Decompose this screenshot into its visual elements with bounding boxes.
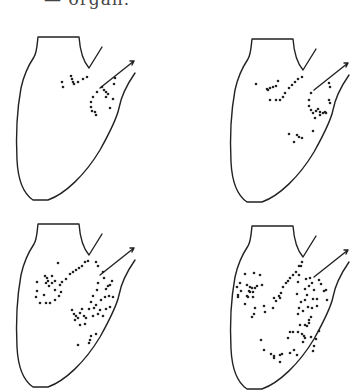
data-dot xyxy=(96,91,99,94)
data-dot xyxy=(246,284,249,287)
data-dot xyxy=(73,83,76,86)
data-dot xyxy=(312,130,315,133)
data-dot xyxy=(109,107,112,110)
data-dot xyxy=(279,99,282,102)
data-dot xyxy=(295,271,298,274)
data-dot xyxy=(72,271,75,274)
data-dot xyxy=(264,311,267,314)
data-dot xyxy=(94,111,97,114)
data-dot xyxy=(58,295,61,298)
data-dot xyxy=(254,287,257,290)
data-dot xyxy=(310,92,313,95)
data-dot xyxy=(304,337,307,340)
data-dot xyxy=(328,82,331,85)
data-dot xyxy=(247,296,250,299)
data-dot xyxy=(105,308,108,311)
data-dot xyxy=(61,281,64,284)
data-dot xyxy=(69,273,72,276)
data-dot xyxy=(105,288,108,291)
data-dot xyxy=(51,282,54,285)
data-dot xyxy=(275,300,278,303)
data-dot xyxy=(269,87,272,90)
data-dot xyxy=(259,274,262,277)
data-dot xyxy=(244,303,247,306)
data-dot xyxy=(326,299,329,302)
data-dot xyxy=(269,99,272,102)
data-dot xyxy=(114,77,117,80)
data-dot xyxy=(111,280,114,283)
data-dot xyxy=(54,280,57,283)
data-dot xyxy=(296,293,299,296)
data-dot xyxy=(293,141,296,144)
data-dot xyxy=(81,308,84,311)
data-dot xyxy=(298,136,301,139)
data-dot xyxy=(74,319,77,322)
data-dot xyxy=(315,110,318,113)
data-dot xyxy=(310,336,313,339)
data-dot xyxy=(95,114,98,117)
data-dot xyxy=(107,93,110,96)
heart-outline xyxy=(231,39,349,202)
data-dot xyxy=(254,307,257,310)
data-dot xyxy=(306,325,309,328)
data-dot xyxy=(85,317,88,320)
data-dot xyxy=(301,137,304,140)
data-dot xyxy=(273,357,276,360)
data-dot xyxy=(312,350,315,353)
data-dot xyxy=(84,261,87,264)
data-dot xyxy=(62,86,65,89)
data-dot xyxy=(312,112,315,115)
data-dot xyxy=(317,108,320,111)
data-dot xyxy=(51,275,54,278)
data-dot xyxy=(237,296,240,299)
data-dot xyxy=(263,305,266,308)
data-dot xyxy=(270,353,273,356)
data-dot xyxy=(61,81,64,84)
data-dot xyxy=(297,331,300,334)
data-dot xyxy=(261,284,264,287)
data-dot xyxy=(84,323,87,326)
data-dot xyxy=(43,294,46,297)
data-dot xyxy=(88,342,91,345)
data-dot xyxy=(78,267,81,270)
data-dot xyxy=(272,86,275,89)
data-dot xyxy=(97,265,100,268)
data-dot xyxy=(112,98,115,101)
data-dot xyxy=(87,260,90,263)
panel-bottom-left xyxy=(17,224,135,387)
data-dot xyxy=(260,339,263,342)
data-dot xyxy=(71,309,74,312)
data-dot xyxy=(60,291,63,294)
data-dot xyxy=(36,290,39,293)
data-dot xyxy=(102,315,105,318)
data-dot xyxy=(301,261,304,264)
data-dot xyxy=(109,284,112,287)
data-dot xyxy=(305,278,308,281)
data-dot xyxy=(318,330,321,333)
data-dot xyxy=(297,313,300,316)
data-dot xyxy=(90,106,93,109)
data-dot xyxy=(291,84,294,87)
data-dot xyxy=(299,324,302,327)
data-dot xyxy=(304,299,307,302)
data-dot xyxy=(325,112,328,115)
data-dot xyxy=(46,277,49,280)
data-dot xyxy=(54,289,57,292)
data-dot xyxy=(253,313,256,316)
data-dot xyxy=(301,76,304,79)
data-dot xyxy=(81,265,84,268)
data-dot xyxy=(92,96,95,99)
data-dot xyxy=(49,302,52,305)
data-dot xyxy=(75,269,78,272)
data-dot xyxy=(75,315,78,318)
data-dot xyxy=(90,301,93,304)
data-dot xyxy=(240,290,243,293)
data-dot xyxy=(79,324,82,327)
data-dot xyxy=(35,296,38,299)
data-dot xyxy=(54,299,57,302)
panel-bottom-right xyxy=(231,226,349,389)
data-dot xyxy=(88,308,91,311)
data-dot xyxy=(308,285,311,288)
data-dot xyxy=(277,80,280,83)
data-dot xyxy=(263,349,266,352)
